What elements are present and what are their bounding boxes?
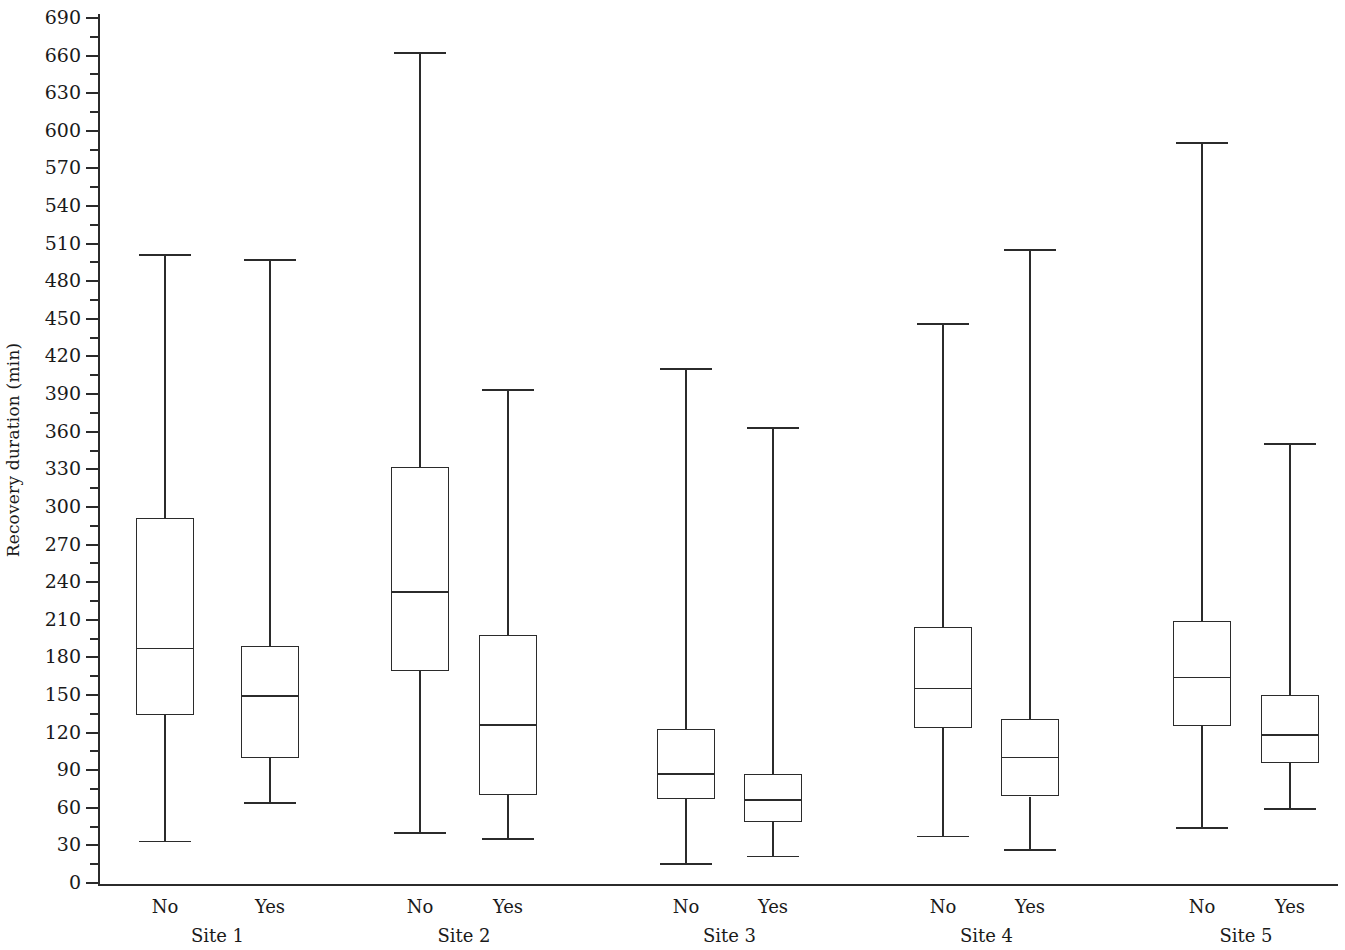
x-axis-item-label: No xyxy=(152,896,179,917)
whisker-upper-cap xyxy=(660,368,712,370)
whisker-lower-stem xyxy=(507,795,509,839)
y-axis-tick-major xyxy=(86,17,99,19)
y-axis-tick-label: 180 xyxy=(0,647,81,666)
whisker-upper-stem xyxy=(1029,250,1031,719)
whisker-lower-stem xyxy=(419,671,421,833)
y-axis-tick-label: 570 xyxy=(0,158,81,177)
whisker-lower-stem xyxy=(1289,763,1291,809)
whisker-lower-stem xyxy=(164,715,166,842)
boxplot-chart: Recovery duration (min) 0306090120150180… xyxy=(0,0,1345,950)
y-axis-tick-major xyxy=(86,544,99,546)
y-axis-tick-label: 360 xyxy=(0,422,81,441)
x-axis-group-label: Site 2 xyxy=(437,925,490,946)
y-axis-tick-major xyxy=(86,807,99,809)
y-axis-tick-minor xyxy=(90,111,99,113)
y-axis-tick-minor xyxy=(90,450,99,452)
x-axis-group-label: Site 3 xyxy=(703,925,756,946)
box-iqr-rect xyxy=(391,467,449,671)
y-axis-tick-minor xyxy=(90,337,99,339)
whisker-lower-stem xyxy=(1029,797,1031,851)
whisker-upper-cap xyxy=(1264,443,1316,445)
whisker-upper-stem xyxy=(942,324,944,627)
y-axis-tick-label: 480 xyxy=(0,271,81,290)
y-axis-title-text: Recovery duration (min) xyxy=(3,343,23,558)
box-median-line xyxy=(1173,677,1231,679)
y-axis-tick-label: 240 xyxy=(0,572,81,591)
whisker-lower-cap xyxy=(244,802,296,804)
box-iqr-rect xyxy=(479,635,537,795)
whisker-upper-stem xyxy=(685,369,687,729)
box-iqr-rect xyxy=(241,646,299,758)
x-axis-group-label: Site 5 xyxy=(1219,925,1272,946)
whisker-upper-stem xyxy=(772,428,774,774)
y-axis-tick-major xyxy=(86,280,99,282)
box-iqr-rect xyxy=(1173,621,1231,726)
whisker-upper-cap xyxy=(139,254,191,256)
y-axis-tick-label: 120 xyxy=(0,723,81,742)
box-median-line xyxy=(241,695,299,697)
x-axis-item-label: No xyxy=(1189,896,1216,917)
y-axis-tick-major xyxy=(86,619,99,621)
box-median-line xyxy=(744,799,802,801)
x-axis-item-label: Yes xyxy=(255,896,285,917)
box-iqr-rect xyxy=(914,627,972,727)
y-axis-tick-label: 210 xyxy=(0,610,81,629)
x-axis-item-label: Yes xyxy=(1275,896,1305,917)
y-axis-tick-minor xyxy=(90,36,99,38)
y-axis-tick-major xyxy=(86,130,99,132)
whisker-upper-cap xyxy=(1176,142,1228,144)
y-axis-tick-major xyxy=(86,732,99,734)
y-axis-tick-major xyxy=(86,318,99,320)
y-axis-tick-major xyxy=(86,694,99,696)
box-iqr-rect xyxy=(657,729,715,799)
y-axis-tick-label: 450 xyxy=(0,309,81,328)
whisker-upper-stem xyxy=(419,53,421,467)
box-median-line xyxy=(914,688,972,690)
y-axis-tick-major xyxy=(86,55,99,57)
whisker-upper-stem xyxy=(1201,143,1203,621)
y-axis-tick-label: 300 xyxy=(0,497,81,516)
y-axis-tick-label: 690 xyxy=(0,8,81,27)
x-axis-item-label: Yes xyxy=(1015,896,1045,917)
y-axis-tick-minor xyxy=(90,487,99,489)
whisker-upper-cap xyxy=(747,427,799,429)
y-axis-tick-minor xyxy=(90,261,99,263)
box-median-line xyxy=(1001,757,1059,759)
y-axis-tick-minor xyxy=(90,638,99,640)
x-axis-item-label: No xyxy=(930,896,957,917)
x-axis-group-label: Site 4 xyxy=(960,925,1013,946)
whisker-upper-stem xyxy=(1289,444,1291,695)
y-axis-tick-label: 90 xyxy=(0,760,81,779)
y-axis-tick-minor xyxy=(90,675,99,677)
y-axis-tick-minor xyxy=(90,750,99,752)
y-axis-tick-major xyxy=(86,92,99,94)
y-axis-tick-minor xyxy=(90,525,99,527)
y-axis-tick-major xyxy=(86,393,99,395)
y-axis-tick-label: 60 xyxy=(0,798,81,817)
y-axis-tick-minor xyxy=(90,412,99,414)
box-median-line xyxy=(391,591,449,593)
y-axis-tick-minor xyxy=(90,863,99,865)
y-axis-tick-label: 630 xyxy=(0,83,81,102)
y-axis-tick-label: 150 xyxy=(0,685,81,704)
y-axis-tick-major xyxy=(86,205,99,207)
whisker-upper-cap xyxy=(917,323,969,325)
y-axis-tick-label: 390 xyxy=(0,384,81,403)
y-axis-tick-minor xyxy=(90,713,99,715)
y-axis-tick-major xyxy=(86,581,99,583)
x-axis-item-label: No xyxy=(407,896,434,917)
whisker-lower-cap xyxy=(917,836,969,838)
x-axis-item-label: Yes xyxy=(493,896,523,917)
y-axis-tick-minor xyxy=(90,149,99,151)
whisker-upper-stem xyxy=(507,390,509,634)
y-axis-tick-major xyxy=(86,769,99,771)
whisker-lower-cap xyxy=(1004,849,1056,851)
box-median-line xyxy=(1261,734,1319,736)
whisker-lower-stem xyxy=(685,799,687,864)
y-axis-tick-major xyxy=(86,656,99,658)
y-axis-tick-label: 0 xyxy=(0,873,81,892)
y-axis-tick-label: 30 xyxy=(0,835,81,854)
box-iqr-rect xyxy=(744,774,802,822)
whisker-upper-cap xyxy=(244,259,296,261)
x-axis-line xyxy=(98,884,1338,886)
